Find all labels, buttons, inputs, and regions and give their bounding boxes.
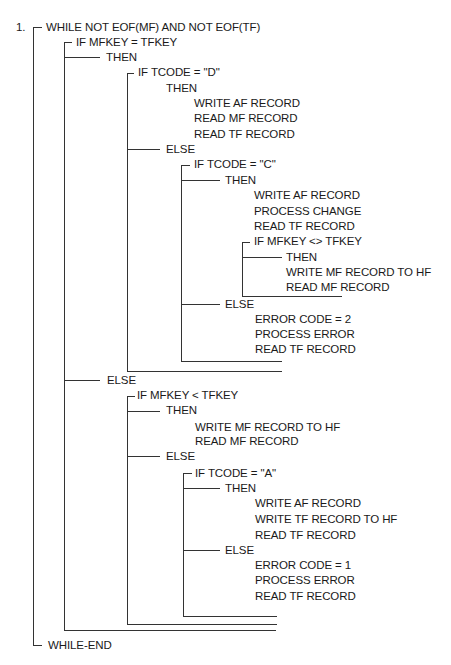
bracket-vertical-line [242, 242, 243, 297]
step-number: 1. [16, 21, 25, 34]
pseudocode-line: IF MFKEY <> TFKEY [254, 235, 362, 248]
bracket-horizontal-line [242, 296, 342, 297]
bracket-horizontal-line [127, 456, 160, 457]
bracket-vertical-line [64, 42, 65, 631]
bracket-horizontal-line [33, 645, 42, 646]
bracket-horizontal-line [183, 488, 220, 489]
bracket-horizontal-line [127, 396, 135, 397]
pseudocode-line: THEN [106, 51, 137, 64]
bracket-horizontal-line [33, 27, 42, 28]
bracket-horizontal-line [183, 616, 277, 617]
pseudocode-line: PROCESS CHANGE [254, 205, 361, 218]
bracket-vertical-line [127, 396, 128, 625]
bracket-horizontal-line [183, 550, 220, 551]
pseudocode-line: ELSE [225, 298, 254, 311]
pseudocode-line: IF MFKEY < TFKEY [137, 389, 238, 402]
pseudocode-line: READ MF RECORD [194, 112, 297, 125]
pseudocode-line: THEN [225, 174, 256, 187]
pseudocode-line: THEN [286, 251, 317, 264]
bracket-horizontal-line [127, 624, 277, 625]
bracket-horizontal-line [181, 361, 282, 362]
pseudocode-line: READ MF RECORD [195, 435, 298, 448]
pseudocode-line: ELSE [166, 143, 195, 156]
pseudocode-line: PROCESS ERROR [255, 574, 355, 587]
pseudocode-line: PROCESS ERROR [255, 328, 355, 341]
bracket-horizontal-line [64, 57, 100, 58]
bracket-horizontal-line [64, 380, 100, 381]
bracket-vertical-line [33, 27, 34, 646]
bracket-horizontal-line [127, 73, 134, 74]
bracket-vertical-line [183, 473, 184, 617]
pseudocode-line: ELSE [107, 374, 136, 387]
pseudocode-line: THEN [166, 404, 197, 417]
pseudocode-line: READ MF RECORD [286, 281, 389, 294]
pseudocode-line: ELSE [166, 450, 195, 463]
bracket-horizontal-line [127, 149, 160, 150]
pseudocode-line: READ TF RECORD [255, 590, 356, 603]
bracket-horizontal-line [181, 180, 220, 181]
bracket-horizontal-line [242, 242, 250, 243]
pseudocode-line: ERROR CODE = 2 [255, 313, 351, 326]
pseudocode-line: IF MFKEY = TFKEY [76, 36, 177, 49]
pseudocode-line: IF TCODE = "C" [194, 158, 276, 171]
pseudocode-line: WHILE NOT EOF(MF) AND NOT EOF(TF) [46, 21, 260, 34]
pseudocode-line: IF TCODE = "A" [195, 467, 276, 480]
bracket-horizontal-line [181, 304, 220, 305]
pseudocode-line: WRITE TF RECORD TO HF [255, 513, 397, 526]
pseudocode-line: WRITE AF RECORD [255, 497, 361, 510]
bracket-horizontal-line [181, 165, 190, 166]
pseudocode-line: THEN [166, 82, 197, 95]
pseudocode-line: WRITE MF RECORD TO HF [195, 421, 340, 434]
pseudocode-line: READ TF RECORD [194, 128, 295, 141]
bracket-horizontal-line [64, 42, 72, 43]
pseudocode-line: ELSE [225, 544, 254, 557]
pseudocode-line: THEN [225, 482, 256, 495]
bracket-horizontal-line [127, 411, 160, 412]
pseudocode-diagram: 1. WHILE NOT EOF(MF) AND NOT EOF(TF)IF M… [0, 0, 451, 665]
bracket-horizontal-line [64, 630, 276, 631]
pseudocode-line: WRITE AF RECORD [254, 189, 360, 202]
pseudocode-line: READ TF RECORD [255, 529, 356, 542]
bracket-horizontal-line [242, 257, 282, 258]
pseudocode-line: WHILE-END [48, 639, 112, 652]
bracket-horizontal-line [183, 473, 192, 474]
bracket-vertical-line [127, 73, 128, 372]
pseudocode-line: READ TF RECORD [255, 343, 356, 356]
pseudocode-line: IF TCODE = "D" [138, 66, 220, 79]
bracket-horizontal-line [127, 371, 282, 372]
bracket-vertical-line [181, 165, 182, 362]
pseudocode-line: WRITE MF RECORD TO HF [286, 266, 431, 279]
pseudocode-line: READ TF RECORD [254, 220, 355, 233]
pseudocode-line: ERROR CODE = 1 [255, 559, 351, 572]
pseudocode-line: WRITE AF RECORD [194, 97, 300, 110]
